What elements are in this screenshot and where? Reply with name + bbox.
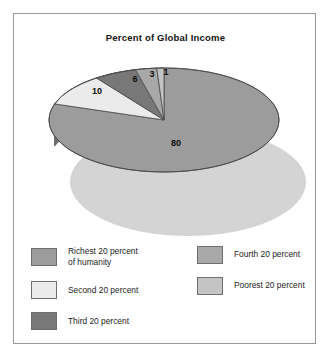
legend-label-poorest-line1: Poorest 20 percent [234,280,305,291]
legend-label-fourth: Fourth 20 percent [234,249,300,260]
chart-legend: Richest 20 percent of humanity Second 20… [14,246,317,341]
legend-swatch-second [31,281,57,299]
slice-label-poorest: 1 [163,67,168,77]
legend-label-fourth-line1: Fourth 20 percent [234,249,300,260]
slice-label-third: 6 [132,74,137,84]
legend-label-richest: Richest 20 percent of humanity [68,246,138,268]
legend-label-third-line1: Third 20 percent [68,316,129,327]
legend-item-fourth[interactable]: Fourth 20 percent [197,246,317,264]
legend-label-richest-line1: Richest 20 percent [68,246,138,257]
legend-item-third[interactable]: Third 20 percent [31,312,176,330]
legend-swatch-richest [31,248,57,266]
legend-item-richest[interactable]: Richest 20 percent of humanity [31,246,176,268]
legend-item-poorest[interactable]: Poorest 20 percent [197,277,317,295]
legend-label-third: Third 20 percent [68,316,129,327]
slice-label-richest: 80 [171,138,181,148]
chart-frame: Percent of Global Income 80 [13,13,316,344]
slice-label-fourth: 3 [149,69,154,79]
legend-label-richest-line2: of humanity [68,257,138,268]
legend-column-right: Fourth 20 percent Poorest 20 percent [197,246,317,308]
legend-label-poorest: Poorest 20 percent [234,280,305,291]
legend-column-left: Richest 20 percent of humanity Second 20… [31,246,176,343]
legend-swatch-fourth [197,246,223,264]
legend-swatch-third [31,312,57,330]
legend-label-second: Second 20 percent [68,285,138,296]
legend-label-second-line1: Second 20 percent [68,285,138,296]
legend-item-second[interactable]: Second 20 percent [31,281,176,299]
pie-chart-svg: 80 10 6 3 1 [14,14,317,239]
slice-label-second: 10 [92,86,102,96]
legend-swatch-poorest [197,277,223,295]
pie-chart: 80 10 6 3 1 [14,14,317,239]
